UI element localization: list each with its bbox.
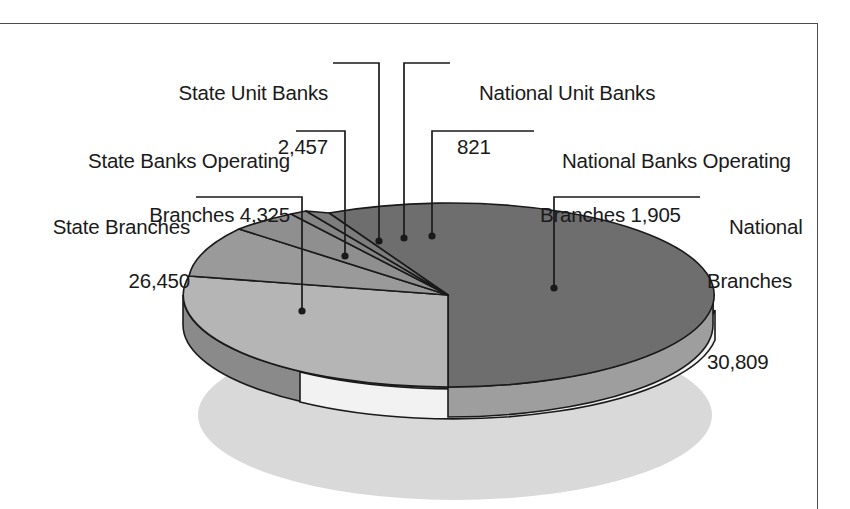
callout-national-branches-name: National [729,215,803,238]
leader-dot-state-unit-banks [375,237,382,244]
callout-national-banks-operating-branches-name: National Banks Operating [562,149,791,172]
leader-dot-state-banks-operating-branches [341,252,348,259]
leader-dot-state-branches [298,307,305,314]
callout-national-branches-value: Branches [707,267,837,294]
callout-state-branches-value: 26,450 [20,267,190,294]
callout-national-unit-banks-name: National Unit Banks [479,81,655,104]
leader-dot-national-unit-banks [400,234,407,241]
callout-state-branches: State Branches 26,450 [20,186,190,348]
callout-state-branches-name: State Branches [53,215,190,238]
callout-state-unit-banks-name: State Unit Banks [179,81,329,104]
callout-state-banks-operating-branches-name: State Banks Operating [88,149,290,172]
callout-national-branches: National Branches 30,809 [707,186,837,429]
callout-national-branches-value2: 30,809 [707,348,837,375]
figure-canvas: State Unit Banks 2,457 State Banks Opera… [0,0,850,509]
leader-dot-national-branches [550,284,557,291]
leader-dot-national-banks-operating-branches [428,232,435,239]
